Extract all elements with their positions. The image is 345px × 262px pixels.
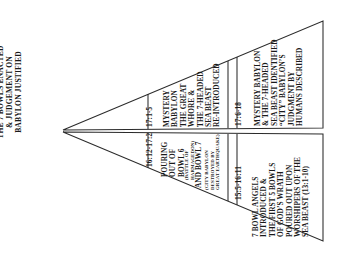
lower-section-1-text-primary: Pouring Out of Bowl 6 <box>161 142 186 177</box>
lower-section-2-text: 7 Bowl Angels Introduced & the First 5 B… <box>252 157 311 237</box>
upper-section-2-line-6: Humans Described <box>296 39 304 126</box>
upper-section-1-reference: 17:1-5 <box>146 107 154 127</box>
lower-section-2-line-7: Sea Beast (13:1-10) <box>302 157 310 237</box>
lower-section-1-text-secondary: and Bowl 7 <box>195 142 203 188</box>
upper-section-1-text: Mystery Babylon the Great Whore & the 7-… <box>163 63 222 127</box>
upper-section-2-reference: 17:6-18 <box>235 102 243 126</box>
upper-section-1-line-7: Re-introduced <box>213 63 221 127</box>
lower-section-1-line-4: and Bowl 7 <box>195 142 203 188</box>
upper-section-2-text: Mystery Babylon & the 7-Headed Sea Beast… <box>254 39 304 126</box>
lower-section-1-parenthetical-b: (City Babylon Destroyed by Great Earthqu… <box>204 134 221 190</box>
diagram-canvas: The 7 Bowls Enacted & Judgement on Babyl… <box>0 0 345 262</box>
lower-section-1-small-b-line-3: Great Earthquake) <box>215 134 221 190</box>
page-title-line-3: Babylon Justified <box>15 17 24 167</box>
lower-section-1-reference: 16:12-17:2 <box>146 133 154 167</box>
lower-section-2-reference: 15:5-16:11 <box>235 166 243 200</box>
page-title: The 7 Bowls Enacted & Judgement on Babyl… <box>0 17 37 167</box>
